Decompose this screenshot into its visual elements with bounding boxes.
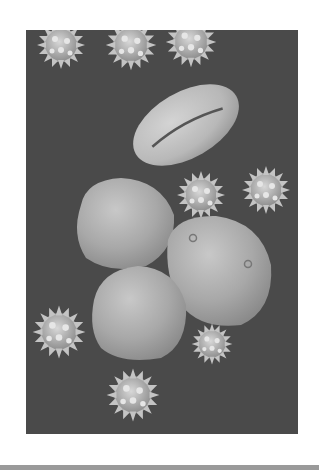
micrograph-drawing bbox=[26, 30, 298, 434]
bottom-edge-band bbox=[0, 465, 319, 470]
pollen-micrograph bbox=[26, 30, 298, 434]
